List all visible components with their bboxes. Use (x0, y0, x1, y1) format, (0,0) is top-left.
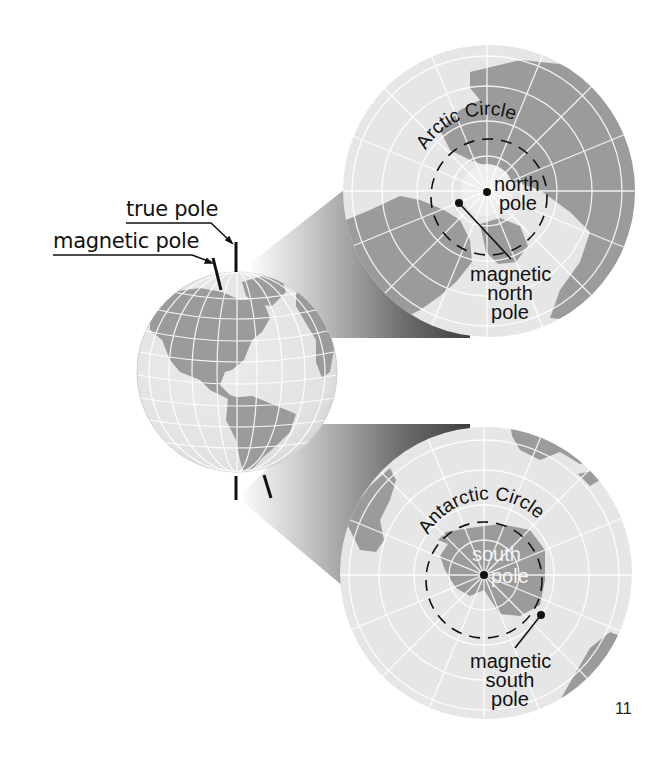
magnetic-poles-diagram: Arctic Circle Antarctic Circle (0, 0, 670, 762)
magnetic-south-pole-label: magnetic south pole (470, 652, 550, 709)
north-pole-dot (483, 188, 491, 196)
true-pole-label: true pole (126, 197, 218, 221)
magnetic-pole-leader (53, 255, 212, 263)
north-pole-label-line2: pole (494, 194, 540, 213)
south-pole-label-line2: pole (472, 567, 529, 586)
magnetic-south-label-line3: pole (470, 690, 550, 709)
south-pole-label-line1: south (472, 545, 529, 564)
magnetic-north-label-line3: pole (470, 303, 550, 322)
page-number: 11 (615, 700, 632, 718)
magnetic-pole-label: magnetic pole (53, 229, 199, 253)
magnetic-north-pole-label: magnetic north pole (470, 265, 550, 322)
small-globe (137, 272, 337, 474)
south-pole-label: south pole (472, 545, 529, 586)
north-pole-label: north pole (494, 175, 540, 213)
